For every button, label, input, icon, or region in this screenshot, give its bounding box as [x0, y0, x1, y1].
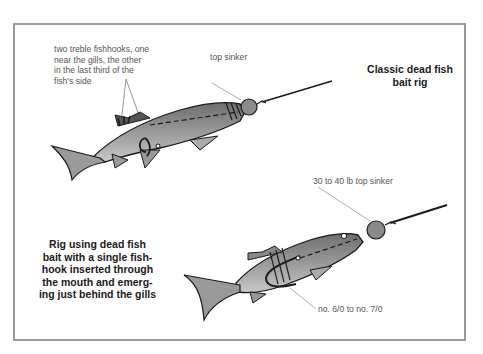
top-fish-icon	[52, 79, 246, 180]
top-sinker-label: top sinker	[210, 52, 247, 63]
title-line: hook inserted through	[30, 263, 165, 276]
hooks-label-line: near the gills, the other	[54, 55, 149, 66]
bottom-sinker-icon	[318, 187, 447, 239]
bottom-sinker-label: 30 to 40 lb top sinker	[313, 176, 393, 187]
hook-size-label: no. 6/0 to no. 7/0	[318, 304, 383, 315]
title-line: Classic dead fish	[350, 63, 470, 76]
bottom-line	[390, 205, 447, 223]
top-rig-title: Classic dead fish bait rig	[350, 63, 470, 88]
top-line	[262, 81, 332, 102]
hooks-label-line: two treble fishhooks, one	[54, 44, 149, 55]
hooks-label-line: in the last third of the	[54, 65, 149, 76]
hooks-label-line: fish's side	[54, 76, 149, 87]
title-line: Rig using dead fish	[30, 238, 165, 251]
title-line: ing just behind the gills	[30, 288, 165, 301]
hooks-label: two treble fishhooks, one near the gills…	[54, 44, 149, 86]
bottom-rig-title: Rig using dead fish bait with a single f…	[30, 238, 165, 301]
title-line: bait rig	[350, 76, 470, 89]
title-line: the mouth and emerg-	[30, 276, 165, 289]
title-line: bait with a single fish-	[30, 251, 165, 264]
